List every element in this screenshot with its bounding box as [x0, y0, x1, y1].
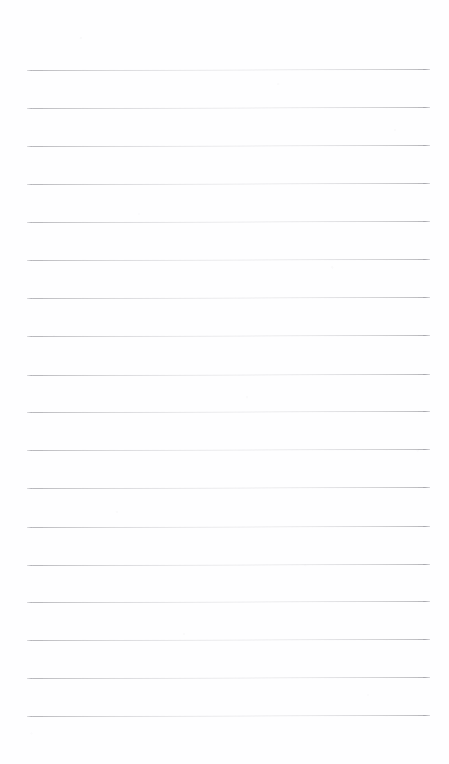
- rule-line: [27, 715, 430, 717]
- ruled-lines-group: [0, 0, 449, 764]
- rule-line: [27, 411, 430, 413]
- rule-line: [27, 526, 430, 528]
- rule-line: [27, 107, 430, 109]
- rule-line: [27, 335, 430, 337]
- rule-line: [27, 487, 430, 489]
- rule-line: [27, 145, 430, 147]
- rule-line: [27, 259, 430, 261]
- rule-line: [27, 601, 430, 603]
- rule-line: [27, 639, 430, 641]
- rule-line: [27, 564, 430, 566]
- rule-line: [27, 183, 430, 185]
- rule-line: [27, 297, 430, 299]
- lined-paper-page: [0, 0, 449, 764]
- rule-line: [27, 69, 430, 71]
- rule-line: [27, 374, 430, 376]
- rule-line: [27, 449, 430, 451]
- rule-line: [27, 221, 430, 223]
- rule-line: [27, 677, 430, 679]
